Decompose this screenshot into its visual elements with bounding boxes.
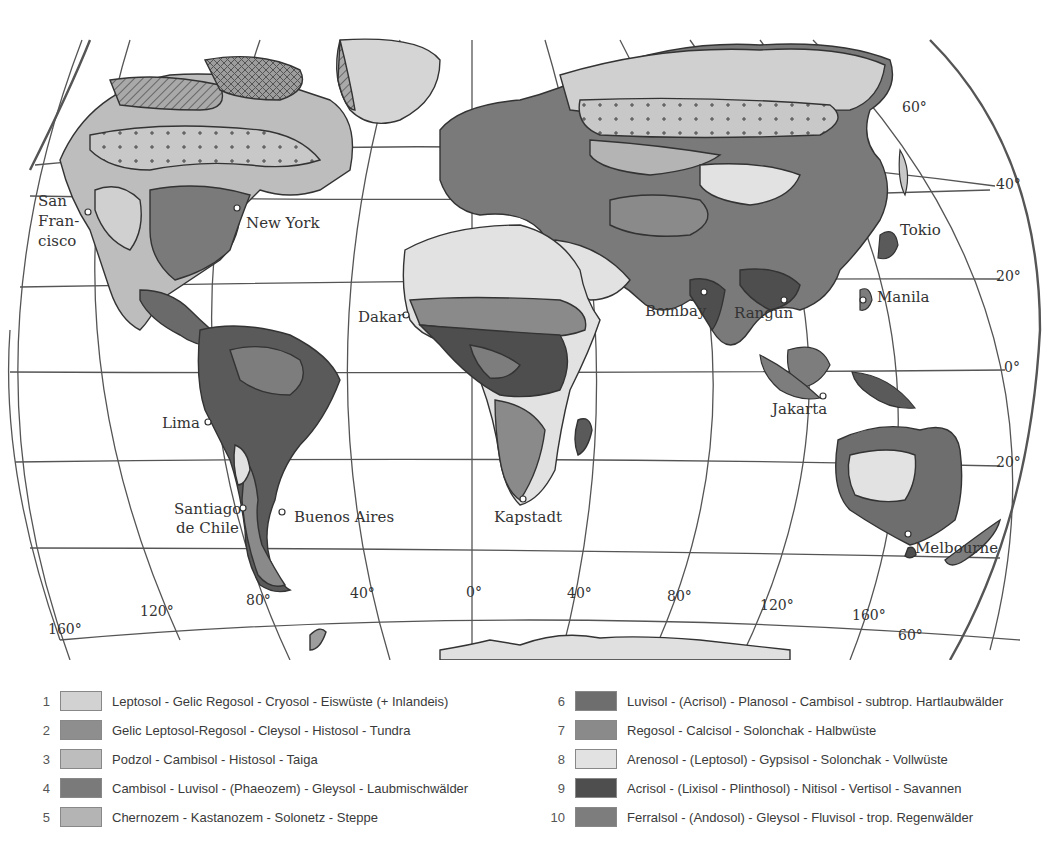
legend-number: 7: [543, 723, 565, 738]
latitude-label: 20°: [996, 268, 1021, 284]
legend-number: 3: [28, 752, 50, 767]
legend-item: 1 Leptosol - Gelic Regosol - Cryosol - E…: [28, 690, 468, 712]
legend-number: 4: [28, 781, 50, 796]
latitude-label: 20°: [996, 454, 1021, 470]
africa: [403, 225, 600, 505]
city-label: Melbourne: [915, 539, 998, 557]
legend-number: 10: [543, 810, 565, 825]
legend-label: Leptosol - Gelic Regosol - Cryosol - Eis…: [112, 694, 448, 709]
city-label: San: [38, 192, 67, 210]
legend-swatch: [60, 691, 102, 711]
city-label: New York: [246, 214, 320, 232]
legend-item: 6 Luvisol - (Acrisol) - Planosol - Cambi…: [543, 690, 1003, 712]
legend-number: 6: [543, 694, 565, 709]
city-label: Fran-: [38, 212, 79, 230]
city-label: Jakarta: [770, 400, 827, 418]
longitude-label: 120°: [760, 597, 794, 613]
legend-swatch: [575, 720, 617, 740]
city-label: Lima: [162, 414, 200, 432]
city-label: Manila: [877, 288, 930, 306]
legend-label: Cambisol - Luvisol - (Phaeozem) - Gleyso…: [112, 781, 468, 796]
legend-number: 9: [543, 781, 565, 796]
city-label: Bombay: [645, 302, 707, 320]
legend-item: 3 Podzol - Cambisol - Histosol - Taiga: [28, 748, 468, 770]
legend-swatch: [575, 749, 617, 769]
legend-swatch: [60, 807, 102, 827]
latitude-label: 0°: [1004, 359, 1020, 375]
city-label: Buenos Aires: [294, 508, 394, 526]
legend-swatch: [60, 749, 102, 769]
legend-label: Podzol - Cambisol - Histosol - Taiga: [112, 752, 318, 767]
legend-swatch: [575, 691, 617, 711]
legend-swatch: [60, 720, 102, 740]
city-label: de Chile: [176, 519, 239, 537]
city-label: Rangun: [734, 304, 794, 322]
legend-item: 9 Acrisol - (Lixisol - Plinthosol) - Nit…: [543, 777, 1003, 799]
legend-item: 7 Regosol - Calcisol - Solonchak - Halbw…: [543, 719, 1003, 741]
legend-label: Regosol - Calcisol - Solonchak - Halbwüs…: [627, 723, 876, 738]
city-label: Dakar: [358, 308, 405, 326]
legend-number: 1: [28, 694, 50, 709]
legend-swatch: [575, 778, 617, 798]
longitude-label: 40°: [567, 585, 592, 601]
north-america: [60, 39, 440, 346]
city-label: cisco: [38, 232, 76, 250]
longitude-label: 80°: [667, 588, 692, 604]
legend-number: 8: [543, 752, 565, 767]
city-label: Tokio: [900, 221, 941, 239]
longitude-label: 160°: [48, 621, 82, 637]
legend-number: 2: [28, 723, 50, 738]
longitude-label: 120°: [140, 603, 174, 619]
city-label: Kapstadt: [494, 508, 562, 526]
legend-item: 2 Gelic Leptosol-Regosol - Cleysol - His…: [28, 719, 468, 741]
longitude-label: 160°: [852, 607, 886, 623]
legend-item: 8 Arenosol - (Leptosol) - Gypsisol - Sol…: [543, 748, 1003, 770]
legend-label: Chernozem - Kastanozem - Solonetz - Step…: [112, 810, 378, 825]
legend-item: 4 Cambisol - Luvisol - (Phaeozem) - Gley…: [28, 777, 468, 799]
longitude-labels: 160° 120° 80° 40° 0° 40° 80° 120° 160°: [48, 584, 886, 637]
longitude-label: 80°: [246, 592, 271, 608]
latitude-label: 60°: [898, 627, 923, 643]
legend-number: 5: [28, 810, 50, 825]
legend-right: 6 Luvisol - (Acrisol) - Planosol - Cambi…: [543, 690, 1003, 835]
legend-item: 10 Ferralsol - (Andosol) - Gleysol - Flu…: [543, 806, 1003, 828]
legend-swatch: [575, 807, 617, 827]
world-soil-map: San Fran- cisco New York Dakar Lima Sant…: [0, 0, 1051, 660]
legend-label: Ferralsol - (Andosol) - Gleysol - Fluvis…: [627, 810, 973, 825]
legend-item: 5 Chernozem - Kastanozem - Solonetz - St…: [28, 806, 468, 828]
legend-label: Acrisol - (Lixisol - Plinthosol) - Nitis…: [627, 781, 962, 796]
latitude-label: 60°: [902, 99, 927, 115]
legend-label: Arenosol - (Leptosol) - Gypsisol - Solon…: [627, 752, 948, 767]
longitude-label: 40°: [350, 585, 375, 601]
longitude-label: 0°: [466, 584, 482, 600]
legend-swatch: [60, 778, 102, 798]
legend-left: 1 Leptosol - Gelic Regosol - Cryosol - E…: [28, 690, 468, 835]
legend-label: Gelic Leptosol-Regosol - Cleysol - Histo…: [112, 723, 410, 738]
legend-label: Luvisol - (Acrisol) - Planosol - Cambiso…: [627, 694, 1003, 709]
latitude-label: 40°: [996, 176, 1021, 192]
city-label: Santiago: [174, 500, 241, 518]
